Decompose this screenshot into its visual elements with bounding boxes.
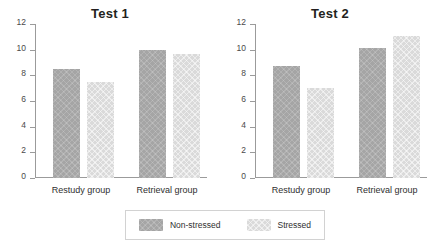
legend-item-stressed: Stressed: [247, 219, 312, 231]
plot-area-test-1: 12 10 8 6 4 2 0 Restudy group Retrieval …: [35, 24, 207, 178]
legend-swatch-non-stressed: [139, 219, 163, 231]
bar-chart-figure: Test 1 12 10 8 6 4 2 0 Restudy group Ret…: [0, 0, 440, 250]
bars-container: Restudy group Retrieval group: [255, 24, 427, 178]
plot-area-test-2: 12 10 8 6 4 2 0 Restudy group Retrieval …: [255, 24, 427, 178]
bar-restudy-stressed: [307, 88, 334, 178]
y-tick-label-4: 4: [241, 120, 246, 130]
bar-restudy-stressed: [87, 82, 114, 178]
y-tick-label-6: 6: [21, 94, 26, 104]
legend-label-non-stressed: Non-stressed: [170, 220, 221, 230]
chart-panel-test-2: Test 2 12 10 8 6 4 2 0 Restudy group Ret…: [220, 0, 440, 205]
y-tick-label-8: 8: [21, 68, 26, 78]
y-tick-label-10: 10: [17, 43, 26, 53]
panel-title-test-1: Test 1: [0, 6, 220, 21]
y-tick-label-4: 4: [21, 120, 26, 130]
bar-retrieval-stressed: [393, 36, 420, 179]
y-tick-0: 0: [30, 178, 35, 179]
y-tick-label-8: 8: [241, 68, 246, 78]
legend-label-stressed: Stressed: [278, 220, 312, 230]
y-tick-label-10: 10: [237, 43, 246, 53]
chart-legend: Non-stressed Stressed: [125, 210, 325, 240]
y-tick-label-12: 12: [17, 17, 26, 27]
bar-restudy-non-stressed: [53, 69, 80, 178]
bar-retrieval-non-stressed: [359, 48, 386, 178]
bar-retrieval-stressed: [173, 54, 200, 179]
y-tick-label-12: 12: [237, 17, 246, 27]
y-tick-label-2: 2: [241, 145, 246, 155]
y-tick-label-6: 6: [241, 94, 246, 104]
x-group-label-restudy: Restudy group: [272, 185, 331, 195]
y-tick-label-2: 2: [21, 145, 26, 155]
legend-swatch-stressed: [247, 219, 271, 231]
y-tick-0: 0: [250, 178, 255, 179]
chart-panels: Test 1 12 10 8 6 4 2 0 Restudy group Ret…: [0, 0, 440, 205]
bar-retrieval-non-stressed: [139, 50, 166, 178]
chart-panel-test-1: Test 1 12 10 8 6 4 2 0 Restudy group Ret…: [0, 0, 220, 205]
x-group-label-retrieval: Retrieval group: [136, 185, 197, 195]
x-group-label-retrieval: Retrieval group: [356, 185, 417, 195]
x-group-label-restudy: Restudy group: [52, 185, 111, 195]
bars-container: Restudy group Retrieval group: [35, 24, 207, 178]
legend-item-non-stressed: Non-stressed: [139, 219, 221, 231]
y-tick-label-0: 0: [241, 171, 246, 181]
panel-title-test-2: Test 2: [220, 6, 440, 21]
bar-restudy-non-stressed: [273, 66, 300, 178]
y-tick-label-0: 0: [21, 171, 26, 181]
